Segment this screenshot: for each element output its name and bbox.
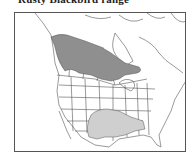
range-map bbox=[15, 13, 186, 152]
breeding-range bbox=[51, 34, 141, 81]
map-frame bbox=[14, 12, 186, 152]
winter-range bbox=[87, 109, 145, 139]
map-title: Rusty Blackbird range bbox=[18, 0, 129, 5]
